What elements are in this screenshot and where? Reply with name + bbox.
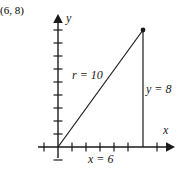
vertical-leg-label: y = 8 xyxy=(146,83,171,95)
x-axis-arrowhead-icon xyxy=(166,142,175,152)
hypotenuse-label: r = 10 xyxy=(72,69,103,81)
right-triangle xyxy=(58,30,143,147)
y-axis-arrowhead-icon xyxy=(53,14,63,23)
point-marker-dot-icon xyxy=(141,28,146,33)
y-axis-label: y xyxy=(66,12,71,24)
hypotenuse-segment xyxy=(58,30,143,147)
coordinate-plane-figure: x y r = 10 y = 8 x = 6 (6, 8) xyxy=(0,0,179,180)
x-axis-label: x xyxy=(163,124,168,136)
y-axis xyxy=(53,14,63,160)
horizontal-leg-label: x = 6 xyxy=(88,153,113,165)
